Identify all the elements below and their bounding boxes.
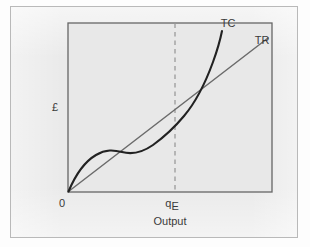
break-even-quantity-label: qE bbox=[165, 197, 178, 212]
figure-root: £ Output 0 qE TC TR bbox=[0, 0, 310, 247]
tc-curve-label: TC bbox=[221, 17, 236, 29]
origin-label: 0 bbox=[59, 197, 65, 209]
break-even-chart: £ Output 0 qE TC TR bbox=[0, 0, 310, 247]
x-axis-label: Output bbox=[153, 215, 186, 227]
plot-area-background bbox=[68, 23, 272, 192]
y-axis-label: £ bbox=[52, 101, 58, 113]
tr-line-label: TR bbox=[255, 34, 270, 46]
break-even-quantity-subscript: E bbox=[171, 200, 178, 212]
